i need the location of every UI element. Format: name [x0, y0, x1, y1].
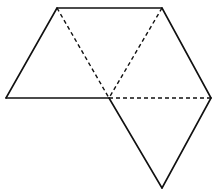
solid-edge-OE — [109, 98, 162, 188]
solid-edge-AC — [6, 8, 57, 98]
dashed-fold-lines — [57, 8, 211, 98]
dashed-edge-AO — [57, 8, 109, 98]
triangle-net-diagram — [0, 0, 212, 192]
solid-edge-BD — [162, 8, 211, 98]
dashed-edge-BO — [109, 8, 162, 98]
solid-edge-DE — [162, 98, 211, 188]
